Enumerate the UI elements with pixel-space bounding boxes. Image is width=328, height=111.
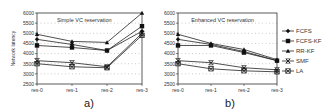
y-tick-label: 3000	[23, 71, 34, 77]
x-tick-label: res-0	[31, 87, 43, 93]
legend-item-rr-kf: RR-KF	[282, 48, 315, 54]
data-point-marker	[176, 32, 180, 36]
panel-caption: b)	[225, 97, 235, 109]
y-tick-label: 4500	[23, 40, 34, 46]
legend-item-la: LA	[282, 68, 303, 74]
x-axis: res-0res-1res-2res-3	[172, 84, 283, 93]
series-la	[176, 62, 279, 75]
data-point-marker	[35, 32, 39, 36]
y-tick-label: 5500	[23, 20, 34, 26]
y-tick-label: 6000	[164, 10, 175, 16]
series-fcfs	[176, 37, 279, 63]
x-axis: res-0res-1res-2res-3	[31, 84, 148, 93]
panel-caption: a)	[84, 97, 94, 109]
chart-a-svg: 25003000350040004500500055006000Network …	[0, 0, 164, 111]
legend-label: LA	[296, 68, 303, 74]
data-point-marker	[70, 45, 74, 49]
data-point-marker	[105, 48, 109, 52]
legend-label: FCFS-KF	[296, 38, 322, 44]
legend-item-fcfs: FCFS	[282, 28, 312, 34]
x-tick-label: res-3	[271, 87, 283, 93]
x-tick-label: res-1	[66, 87, 78, 93]
series-smf	[35, 31, 144, 69]
legend-label: RR-KF	[296, 48, 315, 54]
data-point-marker	[35, 37, 39, 41]
data-point-marker	[176, 37, 180, 41]
x-tick-label: res-3	[136, 87, 148, 93]
y-tick-label: 3500	[164, 61, 175, 67]
legend-marker-icon	[286, 29, 290, 33]
legend: FCFSFCFS-KFRR-KFSMFLA	[282, 28, 322, 74]
legend-label: SMF	[296, 58, 309, 64]
y-tick-label: 5500	[164, 20, 175, 26]
y-tick-label: 6000	[23, 10, 34, 16]
y-tick-label: 3000	[164, 71, 175, 77]
x-tick-label: res-0	[172, 87, 184, 93]
data-point-marker	[176, 43, 180, 47]
y-tick-label: 4500	[164, 40, 175, 46]
x-tick-label: res-1	[205, 87, 217, 93]
y-axis: 25003000350040004500500055006000	[164, 10, 178, 87]
legend-marker-icon	[286, 39, 290, 43]
data-point-marker	[140, 24, 144, 28]
y-axis: 25003000350040004500500055006000	[23, 10, 37, 87]
y-tick-label: 2500	[164, 81, 175, 87]
chart-title: Simple VC reservation	[57, 17, 112, 23]
chart-title: Enhanced VC reservation	[191, 17, 254, 23]
y-tick-label: 3500	[23, 61, 34, 67]
legend-item-smf: SMF	[282, 58, 309, 64]
plot-area	[178, 13, 277, 84]
y-tick-label: 5000	[23, 30, 34, 36]
data-point-marker	[35, 43, 39, 47]
x-tick-label: res-2	[101, 87, 113, 93]
legend-item-fcfs-kf: FCFS-KF	[282, 38, 322, 44]
y-axis-label: Network latency	[10, 30, 16, 66]
y-tick-label: 4000	[23, 50, 34, 56]
chart-b-svg: 25003000350040004500500055006000Network …	[164, 0, 328, 111]
legend-label: FCFS	[296, 28, 312, 34]
chart-simple-vc-reservation: 25003000350040004500500055006000Network …	[0, 0, 164, 111]
x-tick-label: res-2	[238, 87, 250, 93]
chart-enhanced-vc-reservation: 25003000350040004500500055006000Network …	[164, 0, 328, 111]
y-tick-label: 2500	[23, 81, 34, 87]
y-tick-label: 5000	[164, 30, 175, 36]
y-tick-label: 4000	[164, 50, 175, 56]
